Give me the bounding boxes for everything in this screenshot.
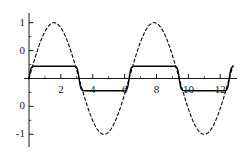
plot-background bbox=[0, 0, 238, 154]
y-tick-label: -1 bbox=[0, 128, 25, 139]
x-tick-label: 12 bbox=[206, 84, 234, 95]
chart-figure: 24681012100-1 bbox=[0, 0, 238, 154]
y-tick-label: 0 bbox=[0, 45, 25, 56]
x-tick-label: 2 bbox=[47, 84, 75, 95]
y-tick-label: 0 bbox=[0, 100, 25, 111]
x-tick-label: 6 bbox=[111, 84, 139, 95]
x-tick-label: 8 bbox=[143, 84, 171, 95]
x-tick-label: 10 bbox=[174, 84, 202, 95]
x-tick-label: 4 bbox=[79, 84, 107, 95]
y-tick-label: 1 bbox=[0, 17, 25, 28]
plot-canvas bbox=[0, 0, 238, 154]
